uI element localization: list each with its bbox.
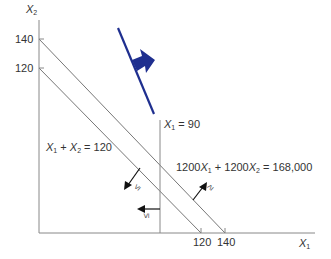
y-tick-label-140: 140 — [15, 34, 33, 45]
x-tick-label-120: 120 — [193, 237, 211, 248]
constraint-label-x1-90: X1 = 90 — [164, 119, 200, 131]
x-axis-label: X1 — [299, 238, 310, 250]
y-tick-label-120: 120 — [15, 63, 33, 74]
arrow-le-x1-90 — [137, 205, 160, 213]
objective-line — [118, 28, 154, 114]
constraint-line-168000 — [39, 39, 225, 233]
constraint-label-x1-plus-x2: X1 + X2 = 120 — [46, 142, 112, 154]
y-axis-label: X2 — [26, 4, 37, 16]
x-tick-label-140: 140 — [217, 237, 235, 248]
constraint-label-168000: 1200X1 + 1200X2 = 168,000 — [176, 162, 312, 174]
le-symbol-2: ≤ — [142, 213, 151, 218]
